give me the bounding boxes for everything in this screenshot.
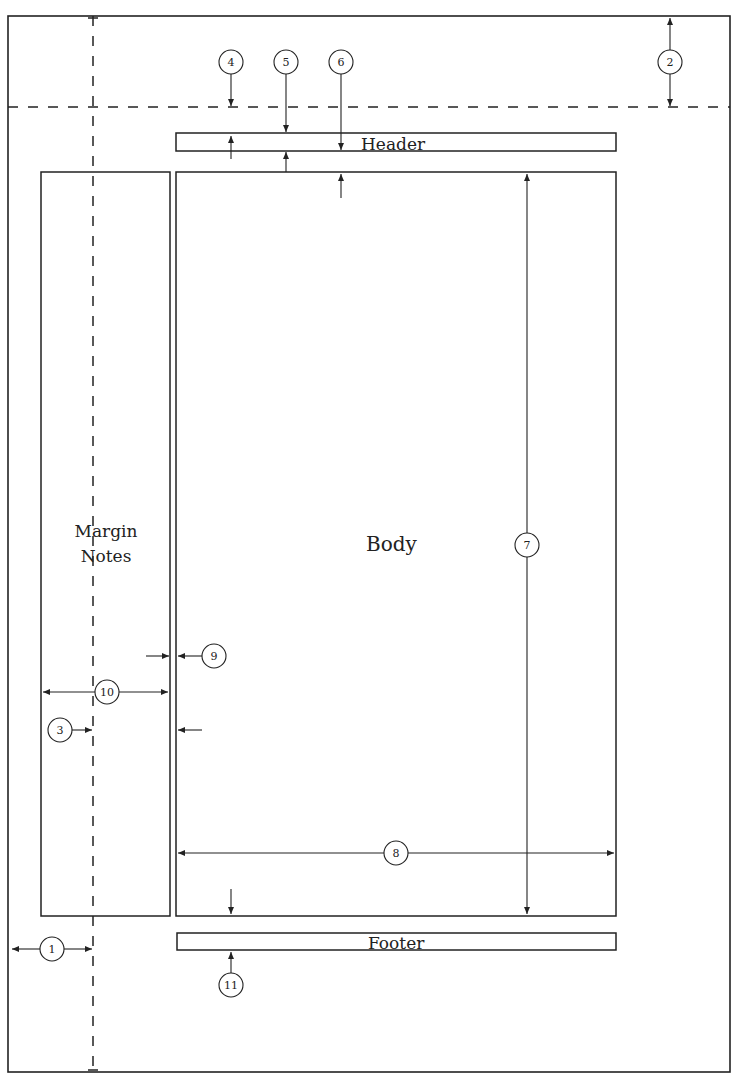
svg-text:3: 3 xyxy=(57,724,64,737)
margin-notes-label-line2: Notes xyxy=(81,546,132,566)
svg-text:7: 7 xyxy=(524,539,531,552)
callout-3: 3 xyxy=(48,718,72,742)
svg-text:6: 6 xyxy=(338,56,345,69)
callout-8: 8 xyxy=(384,841,408,865)
body-label: Body xyxy=(366,532,418,556)
callout-9: 9 xyxy=(202,644,226,668)
callout-7: 7 xyxy=(515,533,539,557)
svg-text:9: 9 xyxy=(211,650,218,663)
margin-notes-box xyxy=(41,172,170,916)
svg-text:11: 11 xyxy=(224,979,238,992)
callout-6: 6 xyxy=(329,50,353,74)
callout-2: 2 xyxy=(658,50,682,74)
callout-10: 10 xyxy=(95,680,119,704)
layout-diagram: Header Body Margin Notes Footer xyxy=(0,0,736,1086)
svg-text:2: 2 xyxy=(667,56,674,69)
svg-text:1: 1 xyxy=(49,943,56,956)
callout-4: 4 xyxy=(219,50,243,74)
svg-text:10: 10 xyxy=(100,686,114,699)
svg-text:4: 4 xyxy=(228,56,235,69)
callout-1: 1 xyxy=(40,937,64,961)
callout-5: 5 xyxy=(274,50,298,74)
margin-notes-label-line1: Margin xyxy=(75,521,138,541)
footer-label: Footer xyxy=(368,933,425,953)
svg-text:8: 8 xyxy=(393,847,400,860)
callout-11: 11 xyxy=(219,973,243,997)
header-label: Header xyxy=(361,134,426,154)
svg-text:5: 5 xyxy=(283,56,290,69)
